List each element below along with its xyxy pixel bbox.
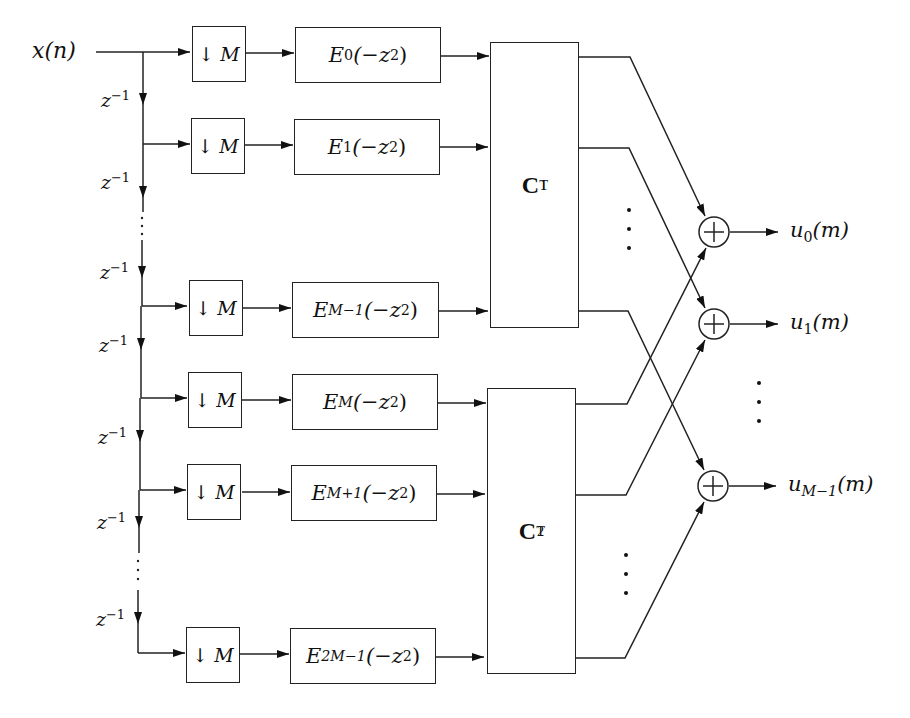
delay-label-7: z−1 bbox=[96, 609, 125, 629]
down-arrow-icon: ↓ bbox=[197, 135, 213, 157]
down-arrow-icon: ↓ bbox=[195, 297, 211, 319]
polyphase-filter-M+1: EM+1(−z2) bbox=[291, 465, 437, 521]
output-label-uM-1: uM−1(m) bbox=[788, 474, 873, 498]
delay-label-6: z−1 bbox=[97, 512, 126, 532]
polyphase-filter-1: E1(−z2) bbox=[294, 119, 440, 175]
down-arrow-icon: ↓ bbox=[193, 481, 209, 503]
matrix-block-C1: CT1 bbox=[490, 42, 579, 328]
polyphase-filter-M-1: EM−1(−z2) bbox=[292, 282, 439, 338]
decimator-block-4: ↓ M bbox=[187, 464, 241, 520]
matrix-block-C2: CT2 bbox=[487, 388, 576, 674]
delay-label-3: z−1 bbox=[100, 262, 129, 282]
polyphase-filter-0: E0(−z2) bbox=[295, 27, 441, 83]
decimator-block-1: ↓ M bbox=[191, 118, 245, 174]
delay-label-2: z−1 bbox=[101, 172, 130, 192]
output-label-u1: u1(m) bbox=[790, 312, 849, 336]
polyphase-filter-2M-1: E2M−1(−z2) bbox=[290, 628, 436, 684]
decimator-block-5: ↓ M bbox=[186, 627, 240, 683]
ellipsis-outputs bbox=[757, 381, 761, 438]
down-arrow-icon: ↓ bbox=[194, 389, 210, 411]
down-arrow-icon: ↓ bbox=[192, 644, 208, 666]
down-arrow-icon: ↓ bbox=[198, 43, 214, 65]
delay-label-1: z−1 bbox=[101, 90, 130, 110]
delay-label-5: z−1 bbox=[98, 427, 127, 447]
ellipsis-c1-outputs bbox=[627, 208, 631, 265]
polyphase-filter-M: EM(−z2) bbox=[292, 374, 438, 430]
delay-label-4: z−1 bbox=[99, 335, 128, 355]
output-label-u0: u0(m) bbox=[790, 220, 849, 244]
decimator-block-2: ↓ M bbox=[189, 280, 243, 336]
decimator-block-3: ↓ M bbox=[188, 372, 242, 428]
decimator-block-0: ↓ M bbox=[192, 26, 246, 82]
input-signal-label: x(n) bbox=[32, 40, 76, 62]
ellipsis-c2-outputs bbox=[624, 553, 628, 610]
diagram-wires bbox=[0, 0, 910, 718]
